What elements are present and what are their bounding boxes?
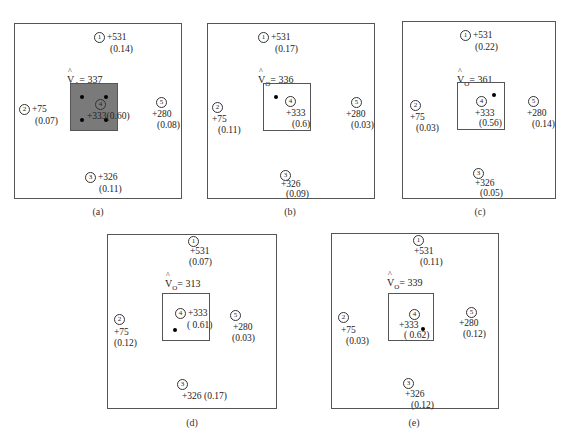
- sample-number-circle-icon: 5: [156, 97, 167, 108]
- panel-caption-d: (d): [182, 417, 202, 428]
- panel-caption-b: (b): [280, 206, 300, 217]
- sample-number-circle-icon: 4: [285, 96, 296, 107]
- sample-5-weight: (0.08): [157, 120, 180, 130]
- sample-4-value: +333: [286, 108, 306, 118]
- sample-2-value: +75: [114, 327, 129, 337]
- sample-5: 5: [466, 307, 479, 318]
- sample-4: 4: [285, 96, 298, 107]
- estimate-label: VO= 313: [165, 278, 200, 292]
- sample-5-value: +280: [152, 109, 172, 119]
- sample-3-weight: (0.11): [99, 184, 122, 194]
- sample-3-weight: (0.09): [286, 189, 309, 199]
- sample-1: 1: [413, 235, 426, 246]
- sample-2-weight: (0.12): [114, 338, 137, 348]
- sample-1-weight: (0.17): [275, 44, 298, 54]
- sample-3-value: +326: [475, 178, 495, 188]
- sample-4-value: +333: [399, 320, 419, 330]
- sample-4-weight: ( 0.62): [404, 330, 429, 340]
- sample-2-value: +75: [410, 112, 425, 122]
- sample-3-weight: (0.12): [411, 400, 434, 410]
- sample-2-weight: (0.03): [346, 336, 369, 346]
- sample-4: 4: [95, 99, 108, 110]
- discretization-point: [173, 328, 177, 332]
- sample-number-circle-icon: 5: [351, 97, 362, 108]
- sample-number-circle-icon: 4: [95, 99, 106, 110]
- sample-4-weight: (0.6): [292, 119, 310, 129]
- sample-3-value: +326: [405, 389, 425, 399]
- sample-5: 5: [528, 96, 541, 107]
- sample-number-circle-icon: 5: [528, 96, 539, 107]
- discretization-point: [274, 95, 278, 99]
- sample-5-weight: (0.03): [351, 120, 374, 130]
- sample-2-weight: (0.03): [416, 123, 439, 133]
- sample-5-value: +280: [233, 322, 253, 332]
- sample-number-circle-icon: 2: [212, 102, 223, 113]
- panel-caption-e: (e): [404, 417, 424, 428]
- sample-number-circle-icon: 5: [230, 310, 241, 321]
- sample-4-value: +333: [475, 108, 495, 118]
- sample-3: 3+326: [85, 172, 118, 183]
- sample-1: 1+531: [258, 32, 291, 43]
- sample-2: 2: [338, 312, 351, 323]
- sample-5: 5: [156, 97, 169, 108]
- sample-1-weight: (0.22): [475, 42, 498, 52]
- panel-c: 1+531 (0.22) VO= 361 4 +333 (0.56) 2 +75…: [402, 21, 556, 199]
- sample-number-circle-icon: 1: [258, 32, 269, 43]
- sample-5-value: +280: [459, 318, 479, 328]
- sample-5: 5: [351, 97, 364, 108]
- sample-2: 2: [212, 102, 225, 113]
- sample-4: 4+333: [175, 308, 208, 319]
- sample-1-value: +531: [414, 246, 434, 256]
- sample-number-circle-icon: 3: [403, 378, 414, 389]
- sample-2-weight: (0.11): [218, 125, 241, 135]
- sample-2-value: +75: [212, 114, 227, 124]
- sample-number-circle-icon: 1: [94, 32, 105, 43]
- panel-caption-a: (a): [88, 206, 108, 217]
- sample-number-circle-icon: 4: [476, 96, 487, 107]
- sample-4: 4: [476, 96, 489, 107]
- sample-number-circle-icon: 1: [460, 30, 471, 41]
- sample-number-circle-icon: 2: [338, 312, 349, 323]
- discretization-point: [492, 93, 496, 97]
- panel-a: 1+531 (0.14) VA= 337 4 +333(0.60) 2+75 (…: [14, 23, 182, 199]
- sample-4-weight: ( 0.61): [187, 320, 212, 330]
- sample-3-weight: (0.05): [480, 188, 503, 198]
- sample-1-weight: (0.14): [110, 44, 133, 54]
- sample-number-circle-icon: 3: [85, 172, 96, 183]
- sample-4-weight: (0.56): [479, 118, 502, 128]
- sample-3-value: +326: [281, 179, 301, 189]
- sample-1: 1+531: [94, 32, 127, 43]
- panel-b: 1+531 (0.17) VO= 336 4 +333 (0.6) 2 +75 …: [207, 23, 375, 199]
- estimate-label: VO= 339: [387, 277, 422, 291]
- sample-number-circle-icon: 2: [114, 314, 125, 325]
- sample-5-value: +280: [527, 108, 547, 118]
- sample-3: 3: [403, 378, 416, 389]
- panel-e: 1 +531 (0.11) VO= 339 4 +333 ( 0.62) 2 +…: [331, 233, 499, 409]
- sample-4: 4: [409, 309, 422, 320]
- sample-1: 1+531: [460, 30, 493, 41]
- sample-5-weight: (0.03): [232, 333, 255, 343]
- sample-5-weight: (0.12): [463, 329, 486, 339]
- sample-3-value: +326 (0.17): [182, 391, 227, 401]
- center-block: [70, 83, 118, 131]
- sample-2: 2: [114, 314, 127, 325]
- sample-2: 2+75: [19, 104, 47, 115]
- sample-number-circle-icon: 5: [466, 307, 477, 318]
- sample-3: 3: [177, 379, 190, 390]
- sample-number-circle-icon: 2: [19, 104, 30, 115]
- sample-1-weight: (0.11): [420, 257, 443, 267]
- sample-4-value: +333(0.60): [87, 111, 130, 121]
- sample-number-circle-icon: 2: [410, 100, 421, 111]
- sample-5-value: +280: [346, 109, 366, 119]
- sample-1-weight: (0.07): [189, 257, 212, 267]
- sample-5-weight: (0.14): [532, 119, 555, 129]
- discretization-point: [80, 118, 84, 122]
- sample-number-circle-icon: 4: [409, 309, 420, 320]
- sample-1-value: +531: [190, 246, 210, 256]
- sample-number-circle-icon: 4: [175, 308, 186, 319]
- sample-number-circle-icon: 3: [177, 379, 188, 390]
- sample-2-weight: (0.07): [35, 116, 58, 126]
- sample-2-value: +75: [341, 325, 356, 335]
- panel-d: 1 +531 (0.07) VO= 313 4+333 ( 0.61) 2 +7…: [107, 234, 277, 409]
- sample-number-circle-icon: 1: [413, 235, 424, 246]
